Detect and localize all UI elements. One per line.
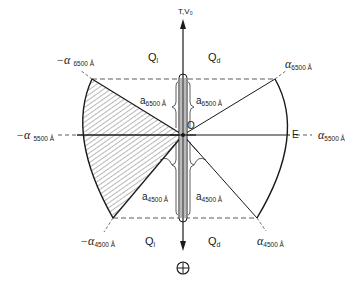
label-neg-alpha-6500: −α 6500 Å bbox=[56, 54, 94, 68]
leader-a4500-right bbox=[194, 158, 206, 165]
brace-a6500-left bbox=[172, 82, 178, 128]
arrow-down-icon bbox=[180, 241, 186, 251]
label-a-6500-left: a6500 Å bbox=[140, 96, 166, 108]
label-neg-alpha-5500: −α 5500 Å bbox=[16, 129, 54, 143]
right-arc bbox=[257, 79, 287, 218]
arrow-up-icon bbox=[180, 19, 186, 29]
subscript: 4500 Å bbox=[263, 241, 284, 248]
q-main: Q bbox=[148, 51, 157, 63]
prefix: − bbox=[16, 128, 24, 142]
subscript: 5500 Å bbox=[33, 135, 54, 142]
dash-ext-ll bbox=[104, 218, 113, 232]
prefix: − bbox=[80, 234, 88, 248]
label-a-4500-left: a4500 Å bbox=[142, 192, 168, 204]
origin-label: O bbox=[187, 121, 195, 131]
subscript: 4500 Å bbox=[148, 196, 169, 203]
axis-label: T,V₀ bbox=[178, 8, 193, 16]
q-sub: l bbox=[157, 57, 159, 64]
q-main: Q bbox=[208, 235, 217, 247]
q-main: Q bbox=[145, 235, 154, 247]
quadrant-lower-right: Qd bbox=[208, 236, 220, 248]
subscript: 5500 Å bbox=[324, 135, 345, 142]
subscript: 6500 Å bbox=[291, 64, 312, 71]
quadrant-lower-left: Ql bbox=[145, 236, 155, 248]
subscript: 6500 Å bbox=[202, 100, 223, 107]
q-sub: d bbox=[217, 57, 221, 64]
subscript: 4500 Å bbox=[202, 196, 223, 203]
label-alpha-4500: α4500 Å bbox=[257, 235, 284, 249]
label-alpha-5500: α5500 Å bbox=[318, 129, 345, 143]
symbol: α bbox=[64, 53, 70, 67]
label-a-4500-right: a4500 Å bbox=[196, 192, 222, 204]
label-neg-alpha-4500: −α4500 Å bbox=[80, 235, 115, 249]
q-sub: l bbox=[154, 241, 156, 248]
label-a-6500-right: a6500 Å bbox=[196, 96, 222, 108]
q-main: Q bbox=[208, 51, 217, 63]
q-sub: d bbox=[217, 241, 221, 248]
subscript: 4500 Å bbox=[94, 241, 115, 248]
leader-a4500-left bbox=[160, 158, 172, 165]
diagram-canvas bbox=[0, 0, 360, 286]
prefix: − bbox=[56, 53, 64, 67]
dash-ext-ul bbox=[80, 70, 92, 79]
quadrant-upper-right: Qd bbox=[208, 52, 220, 64]
subscript: 6500 Å bbox=[73, 60, 94, 67]
symbol: α bbox=[24, 128, 30, 142]
subscript: 6500 Å bbox=[146, 100, 167, 107]
e-label: E bbox=[292, 130, 299, 140]
label-alpha-6500: α6500 Å bbox=[285, 58, 312, 72]
brace-a4500-left bbox=[172, 142, 178, 215]
circle-plus-icon bbox=[177, 262, 189, 274]
brace-a4500-right bbox=[188, 142, 194, 215]
dash-ext-lr bbox=[257, 218, 266, 231]
quadrant-upper-left: Ql bbox=[148, 52, 158, 64]
